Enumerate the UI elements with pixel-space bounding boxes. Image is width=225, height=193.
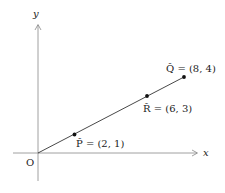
- y-axis-label: y: [32, 8, 39, 19]
- point-Q: [182, 75, 186, 79]
- x-axis-label: x: [203, 147, 209, 158]
- coordinate-diagram: y x O P̂ = (2, 1) R̂ = (6, 3) Q̂ = (8, 4…: [0, 0, 225, 193]
- point-Q-label: Q̂ = (8, 4): [166, 63, 216, 74]
- point-R: [145, 94, 149, 98]
- point-R-label: R̂ = (6, 3): [143, 103, 192, 114]
- point-P: [73, 133, 77, 137]
- point-P-label: P̂ = (2, 1): [76, 138, 124, 149]
- origin-label: O: [26, 157, 34, 168]
